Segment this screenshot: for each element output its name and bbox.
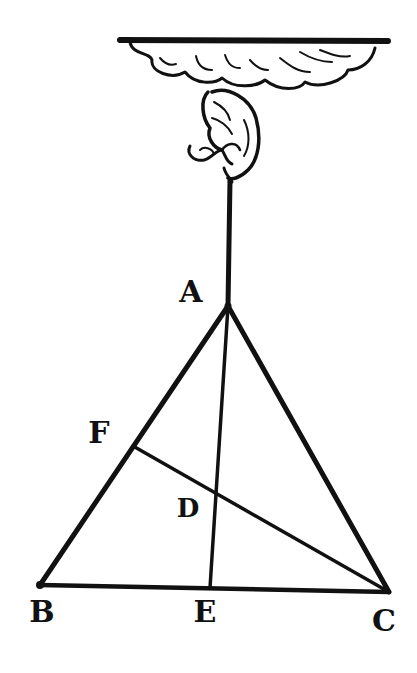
diagram-canvas: A F D B E C	[0, 0, 417, 673]
hand-icon	[189, 90, 259, 182]
geometry-figure	[0, 0, 417, 673]
segment-ae	[210, 306, 228, 588]
suspension-string	[228, 180, 230, 306]
segment-ac	[228, 306, 389, 592]
segment-bc	[40, 585, 389, 592]
vertex-b-dot	[36, 581, 44, 589]
label-d: D	[177, 495, 200, 521]
cloud-ceiling-icon	[120, 40, 388, 89]
label-b: B	[29, 597, 54, 627]
label-a: A	[179, 277, 202, 307]
label-e: E	[194, 597, 217, 627]
vertex-a-dot	[225, 303, 232, 310]
label-f: F	[88, 418, 109, 448]
label-c: C	[372, 606, 396, 636]
